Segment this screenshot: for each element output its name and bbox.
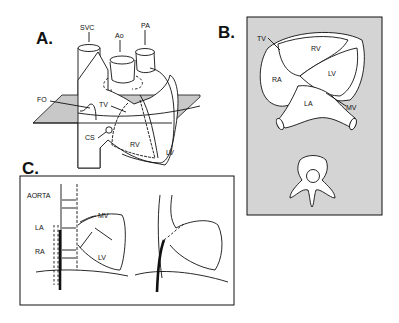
label-lv-c: LV [98, 254, 106, 261]
spinal-canal [307, 170, 320, 183]
label-ra-b: RA [272, 76, 282, 83]
panel-c: C. AORTA LA RA MV LV [20, 159, 234, 305]
label-tv: TV [99, 101, 108, 108]
figure: A. SVC Ao PA FO [0, 0, 399, 323]
label-mv-b: MV [346, 104, 357, 111]
label-ra-c: RA [35, 248, 45, 255]
panel-c-letter: C. [22, 159, 39, 178]
label-rv: RV [130, 141, 140, 148]
panel-a-letter: A. [36, 29, 53, 48]
label-la-c: LA [35, 224, 44, 231]
label-tv-b: TV [257, 35, 266, 42]
label-lv-b: LV [328, 70, 336, 77]
label-fo: FO [37, 96, 47, 103]
svc-opening [78, 45, 100, 52]
label-la-b: LA [304, 100, 313, 107]
label-pa: PA [141, 22, 150, 29]
panel-b-letter: B. [218, 23, 235, 42]
label-svc: SVC [80, 24, 94, 31]
label-mv-c: MV [98, 212, 109, 219]
cs-ostium [106, 127, 112, 133]
label-cs: CS [85, 134, 95, 141]
label-ao: Ao [115, 32, 124, 39]
label-lv: LV [166, 149, 174, 156]
pa-opening [136, 49, 155, 56]
panel-c-frame [20, 176, 234, 305]
panel-a: A. SVC Ao PA FO [33, 22, 200, 168]
panel-b: B. TV RV RA LV LA MV [218, 17, 382, 215]
label-rv-b: RV [311, 45, 321, 52]
aorta-opening [110, 56, 134, 64]
label-aorta: AORTA [27, 192, 51, 199]
